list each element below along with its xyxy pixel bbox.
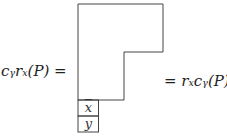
cell-y-label: y <box>85 116 92 131</box>
young-diagram-shape <box>0 0 227 138</box>
cell-x-bar: x <box>78 100 99 116</box>
cell-y: y <box>78 116 99 132</box>
cell-x-label: x <box>85 100 92 115</box>
